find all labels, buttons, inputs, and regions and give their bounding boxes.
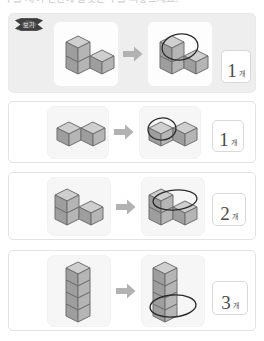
q3-right-figure-card [141,255,205,327]
q2-answer-unit: 개 [232,212,238,221]
example-answer-box: 1 개 [221,50,251,83]
example-left-figure-card [53,21,119,87]
q3-answer-unit: 개 [233,301,239,310]
three-cube-l-shape-icon [58,29,114,79]
q1-answer-box: 1 개 [212,120,244,152]
three-cube-l-shape-circled-icon [152,29,208,79]
example-arrow [123,45,143,63]
example-answer-unit: 개 [239,69,245,78]
q1-right-figure-card [139,106,201,159]
q1-left-figure-card [47,106,109,159]
example-badge-label: 보기 [15,18,43,31]
q3-left-figure-card [47,255,111,327]
example-answer-number: 1 [227,61,237,80]
question-panel-3: 3 개 [8,250,256,331]
example-right-figure-card [147,21,213,87]
question-panel-2: 2 개 [8,172,256,240]
q1-answer-unit: 개 [231,138,237,147]
question-panel-1: 1 개 [8,101,256,163]
q3-answer-number: 3 [221,293,231,312]
q2-left-figure-card [47,177,111,236]
two-cube-row-circled-icon [143,114,197,152]
two-cube-row-icon [51,114,105,152]
q2-right-figure-card [141,177,205,236]
right-arrow-icon [116,199,136,215]
vertical-stack-four-circled-icon [147,258,199,324]
right-arrow-icon [114,124,134,140]
q2-arrow [116,199,136,215]
vertical-stack-four-icon [58,258,100,324]
q3-arrow [116,283,136,299]
example-badge: 보기 [15,18,43,31]
q3-answer-box: 3 개 [212,281,248,315]
l-shape-four-cubes-icon [51,183,107,231]
l-shape-four-cubes-circled-icon [145,183,201,231]
q2-answer-number: 2 [220,204,230,223]
q1-arrow [114,124,134,140]
q1-answer-number: 1 [219,130,229,149]
example-panel: 보기 [8,13,256,93]
right-arrow-icon [123,46,143,62]
right-arrow-icon [116,283,136,299]
q2-answer-box: 2 개 [212,193,246,226]
page-title: 수를 세어 빈칸에 알맞은 수를 써넣으세요. [4,0,204,5]
